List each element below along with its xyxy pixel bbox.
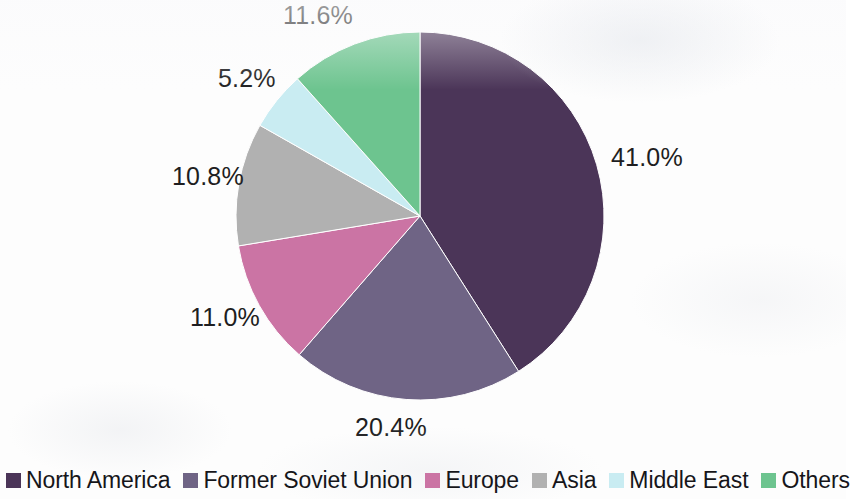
pie-data-label: 11.6% <box>283 1 353 30</box>
legend-item[interactable]: Asia <box>532 469 596 492</box>
legend-swatch-icon <box>532 473 547 488</box>
pie-data-label: 5.2% <box>218 64 276 93</box>
legend-item-label: Europe <box>445 469 519 492</box>
pie-data-label: 20.4% <box>355 413 427 442</box>
pie-data-label: 41.0% <box>611 143 683 172</box>
legend-item[interactable]: Europe <box>425 469 519 492</box>
legend-item-label: Middle East <box>629 469 748 492</box>
pie-slice-group <box>236 32 604 400</box>
legend-item-label: Others <box>781 469 849 492</box>
legend-item-label: North America <box>26 469 170 492</box>
legend-item[interactable]: Former Soviet Union <box>183 469 412 492</box>
pie-data-label: 11.0% <box>190 303 260 332</box>
legend-swatch-icon <box>183 473 198 488</box>
legend-item[interactable]: North America <box>6 469 170 492</box>
legend-item[interactable]: Others <box>761 469 849 492</box>
legend-item-label: Former Soviet Union <box>203 469 412 492</box>
legend-swatch-icon <box>425 473 440 488</box>
legend-item-label: Asia <box>552 469 596 492</box>
legend-item[interactable]: Middle East <box>609 469 748 492</box>
pie-data-label: 10.8% <box>172 162 244 191</box>
legend-swatch-icon <box>761 473 776 488</box>
legend-swatch-icon <box>6 473 21 488</box>
pie-plot-area: 41.0%20.4%11.0%10.8%5.2%11.6% <box>0 0 846 455</box>
pie-svg <box>0 0 846 455</box>
legend-swatch-icon <box>609 473 624 488</box>
chart-legend: North AmericaFormer Soviet UnionEuropeAs… <box>0 461 846 499</box>
